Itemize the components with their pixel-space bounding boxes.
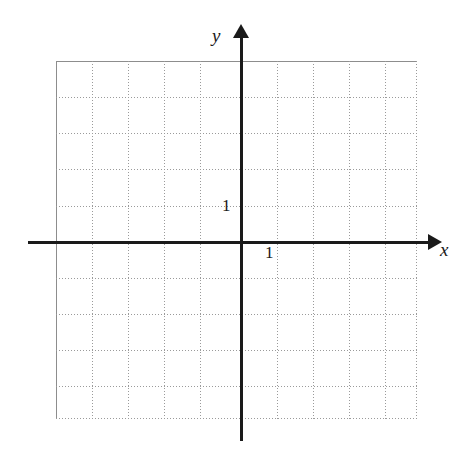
grid-line-horizontal [56, 133, 417, 134]
grid-line-vertical [416, 61, 417, 419]
grid-line-horizontal [56, 278, 417, 279]
grid-line-vertical [349, 61, 350, 419]
grid-line-vertical [164, 61, 165, 419]
x-axis-tick-label-one: 1 [265, 244, 274, 261]
y-axis-tick-label-one: 1 [222, 197, 231, 214]
grid-line-vertical [200, 61, 201, 419]
grid-line-vertical [385, 61, 386, 419]
grid-line-horizontal [56, 206, 417, 207]
grid-line-vertical [277, 61, 278, 419]
grid-line-horizontal [56, 386, 417, 387]
x-axis-line [28, 241, 432, 244]
grid-line-vertical [92, 61, 93, 419]
x-axis-label: x [440, 240, 448, 259]
grid-area [56, 61, 417, 419]
grid-line-horizontal [56, 314, 417, 315]
coordinate-grid-figure: y x 1 1 [0, 0, 475, 451]
grid-line-horizontal [56, 169, 417, 170]
y-axis-arrow-icon [233, 24, 249, 38]
y-axis-label: y [212, 26, 220, 45]
grid-line-vertical [128, 61, 129, 419]
grid-line-horizontal [56, 97, 417, 98]
y-axis-line [240, 37, 243, 441]
grid-line-horizontal [56, 418, 417, 419]
grid-line-horizontal [56, 350, 417, 351]
grid-line-vertical [313, 61, 314, 419]
